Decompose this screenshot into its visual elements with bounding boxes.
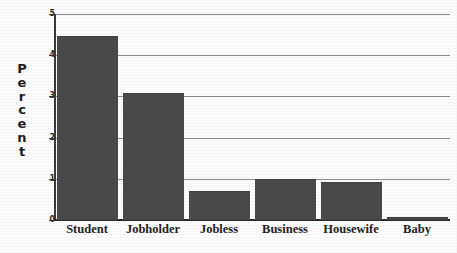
bar (189, 191, 250, 220)
y-axis-title-letter: r (19, 90, 25, 104)
y-axis-title-letter: e (18, 76, 27, 90)
y-tick-label: 5 (41, 9, 55, 18)
x-axis-labels: StudentJobholderJoblessBusinessHousewife… (54, 222, 454, 244)
x-axis-label: Student (57, 222, 118, 237)
y-tick-label: 4 (41, 50, 55, 59)
y-tick-label: 0 (41, 215, 55, 224)
bars-layer (54, 14, 450, 220)
y-axis-title: P e r c e n t (9, 62, 35, 158)
y-tick-label: 2 (41, 133, 55, 142)
bar (57, 36, 118, 220)
y-tick-label: 1 (41, 174, 55, 183)
y-axis-title-letter: t (19, 145, 25, 159)
y-axis-title-letter: P (17, 62, 27, 76)
x-axis-label: Housewife (321, 222, 382, 237)
y-tick-label: 3 (41, 91, 55, 100)
y-axis-title-letter: n (17, 131, 26, 145)
x-axis-label: Jobholder (123, 222, 184, 237)
bar (321, 182, 382, 220)
x-axis-label: Business (255, 222, 316, 237)
bar-chart: P e r c e n t 012345 StudentJobholderJob… (0, 0, 457, 253)
bar (387, 217, 448, 220)
bar (255, 179, 316, 220)
bar (123, 93, 184, 220)
x-axis-label: Baby (387, 222, 448, 237)
x-axis-label: Jobless (189, 222, 250, 237)
y-axis-title-letter: e (18, 117, 27, 131)
y-axis-title-letter: c (18, 103, 26, 117)
